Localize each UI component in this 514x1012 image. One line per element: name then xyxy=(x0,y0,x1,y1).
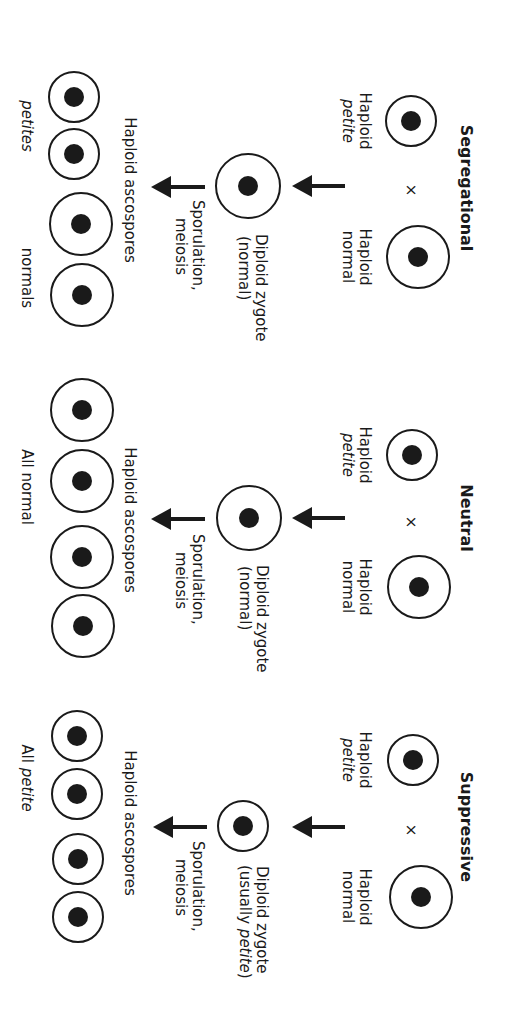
step-label-1: Sporulation, xyxy=(189,534,207,625)
panel-suppressive: Suppressive Haploid petite × Haploid nor… xyxy=(18,711,476,979)
zygote-label-2: (normal) xyxy=(236,566,254,630)
zygote-cell-icon xyxy=(216,154,280,218)
parent-normal-label-2: normal xyxy=(339,871,357,924)
panel-title: Suppressive xyxy=(457,772,476,883)
step-label-2: meiosis xyxy=(172,552,190,609)
parent-petite-label-1: Haploid xyxy=(356,731,374,788)
spores-label: Haploid ascospores xyxy=(121,447,139,593)
result-prefix: All xyxy=(18,744,36,767)
spore-petite-cell-icon xyxy=(53,834,103,884)
zygote-label-1: Diploid zygote xyxy=(252,234,270,342)
parent-normal-label-1: Haploid xyxy=(356,558,374,615)
parent-petite-label-1: Haploid xyxy=(356,92,374,149)
cross-symbol: × xyxy=(402,516,420,529)
step-label-2: meiosis xyxy=(172,218,190,275)
arrow-down-icon xyxy=(292,175,345,197)
spore-normal-cell-icon xyxy=(51,264,113,326)
result-italic: petite xyxy=(18,767,36,812)
zygote-label-1: Diploid zygote xyxy=(253,866,271,974)
spore-petite-cell-icon xyxy=(52,769,102,819)
spore-normal-cell-icon xyxy=(51,526,113,588)
parent-petite-label-1: Haploid xyxy=(356,426,374,483)
parent-normal-cell-icon xyxy=(387,226,449,288)
spore-petite-cell-icon xyxy=(53,892,103,942)
spore-petite-cell-icon xyxy=(49,129,99,179)
parent-normal-label-2: normal xyxy=(339,561,357,614)
result-normals: normals xyxy=(18,248,36,309)
panel-segregational: Segregational Haploid petite × Haploid n… xyxy=(18,72,476,342)
petite-cross-diagram: Segregational Haploid petite × Haploid n… xyxy=(0,0,514,1012)
result-all-normal: All normal xyxy=(18,449,36,525)
spore-normal-cell-icon xyxy=(52,595,114,657)
zygote-label-2: (normal) xyxy=(235,236,253,300)
spore-normal-cell-icon xyxy=(50,193,112,255)
zygote-label-2: (usually petite) xyxy=(236,865,254,979)
arrow-down-icon xyxy=(292,507,345,529)
parent-normal-cell-icon xyxy=(388,556,450,618)
arrow-down-icon xyxy=(151,176,205,198)
panel-neutral: Neutral Haploid petite × Haploid normal … xyxy=(18,379,476,673)
arrow-down-icon xyxy=(151,508,205,530)
parent-petite-label-2: petite xyxy=(339,737,357,782)
cross-symbol: × xyxy=(402,824,420,837)
zygote-cell-icon xyxy=(218,801,268,851)
spore-normal-cell-icon xyxy=(51,379,113,441)
parent-petite-label-2: petite xyxy=(339,432,357,477)
panel-title: Segregational xyxy=(457,125,476,252)
parent-petite-cell-icon xyxy=(387,430,437,480)
zygote-label-prefix: (usually xyxy=(236,865,254,929)
step-label-1: Sporulation, xyxy=(189,841,207,932)
cross-symbol: × xyxy=(402,184,420,197)
panel-title: Neutral xyxy=(457,484,476,551)
parent-petite-cell-icon xyxy=(388,735,438,785)
zygote-label-suffix: ) xyxy=(236,973,254,979)
step-label-1: Sporulation, xyxy=(189,200,207,291)
zygote-label-italic: petite xyxy=(236,928,254,973)
spores-label: Haploid ascospores xyxy=(121,117,139,263)
zygote-label-1: Diploid zygote xyxy=(253,565,271,673)
parent-normal-cell-icon xyxy=(390,866,452,928)
step-label-2: meiosis xyxy=(172,859,190,916)
parent-petite-cell-icon xyxy=(386,96,436,146)
spores-label: Haploid ascospores xyxy=(121,750,139,896)
parent-normal-label-1: Haploid xyxy=(356,868,374,925)
arrow-down-icon xyxy=(292,816,345,838)
spore-petite-cell-icon xyxy=(49,72,99,122)
zygote-cell-icon xyxy=(217,486,281,550)
spore-normal-cell-icon xyxy=(51,450,113,512)
result-petites: petites xyxy=(18,99,36,152)
spore-petite-cell-icon xyxy=(52,711,102,761)
arrow-down-icon xyxy=(153,816,207,838)
parent-normal-label-1: Haploid xyxy=(356,228,374,285)
parent-normal-label-2: normal xyxy=(339,231,357,284)
result-all-petite: All petite xyxy=(18,744,36,811)
parent-petite-label-2: petite xyxy=(339,98,357,143)
